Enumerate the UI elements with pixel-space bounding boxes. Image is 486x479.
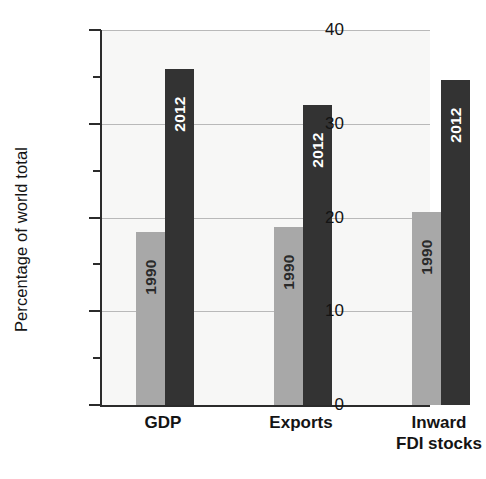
x-category-label-line: FDI stocks	[369, 434, 486, 455]
bar-1990-gdp[interactable]: 1990	[136, 232, 165, 405]
x-category-label-line: Exports	[231, 413, 371, 434]
x-category-label-line: GDP	[93, 413, 233, 434]
bar-1990-exports[interactable]: 1990	[274, 227, 303, 405]
gridline-40	[102, 30, 430, 31]
y-tick-major-30	[89, 123, 101, 125]
x-category-label-gdp: GDP	[93, 413, 233, 434]
y-tick-major-20	[89, 217, 101, 219]
y-tick-label-10: 10	[325, 301, 344, 321]
y-tick-label-30: 30	[325, 114, 344, 134]
bar-2012-gdp[interactable]: 2012	[165, 69, 194, 405]
y-tick-label-0: 0	[335, 395, 344, 415]
y-axis-title: Percentage of world total	[0, 0, 42, 479]
y-tick-major-10	[89, 310, 101, 312]
bar-value-label: 2012	[447, 107, 465, 142]
plot-area: 199020121990201219902012	[100, 30, 430, 407]
y-tick-minor-35	[93, 76, 101, 78]
y-tick-label-20: 20	[325, 208, 344, 228]
x-category-label-inward-fdi-stocks: InwardFDI stocks	[369, 413, 486, 454]
bar-value-label: 2012	[309, 132, 327, 167]
y-tick-major-40	[89, 29, 101, 31]
y-tick-minor-25	[93, 170, 101, 172]
y-tick-minor-5	[93, 357, 101, 359]
bar-value-label: 1990	[280, 254, 298, 289]
bar-1990-inward-fdi-stocks[interactable]: 1990	[412, 212, 441, 405]
y-tick-major-0	[89, 404, 101, 406]
y-tick-label-40: 40	[325, 20, 344, 40]
bar-value-label: 1990	[418, 239, 436, 274]
gridline-30	[102, 124, 430, 125]
bar-2012-exports[interactable]: 2012	[303, 105, 332, 405]
y-tick-minor-15	[93, 263, 101, 265]
bar-2012-inward-fdi-stocks[interactable]: 2012	[441, 80, 470, 405]
gridline-20	[102, 218, 430, 219]
x-category-label-exports: Exports	[231, 413, 371, 434]
bar-value-label: 1990	[142, 259, 160, 294]
bar-value-label: 2012	[171, 97, 189, 132]
x-category-label-line: Inward	[369, 413, 486, 434]
